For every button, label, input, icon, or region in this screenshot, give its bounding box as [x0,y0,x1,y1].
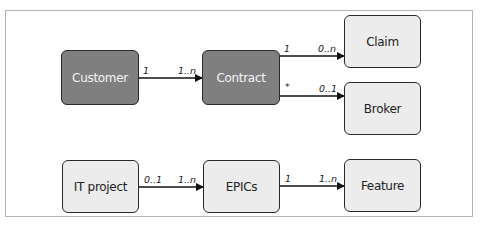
mult-claim-target: 0..n [318,44,336,54]
node-customer-label: Customer [72,71,128,85]
node-it-project[interactable]: IT project [62,160,139,213]
mult-feature-target: 1..n [319,174,337,184]
node-epics[interactable]: EPICs [203,160,280,213]
mult-customer-source: 1 [143,66,149,76]
mult-broker-target: 0..1 [319,84,337,94]
mult-contract-claim-source: 1 [284,44,290,54]
node-broker-label: Broker [364,102,401,116]
node-customer[interactable]: Customer [61,50,139,105]
node-claim-label: Claim [366,35,399,49]
node-epics-label: EPICs [226,180,258,194]
node-it-project-label: IT project [74,180,127,194]
mult-epics-target: 1..n [178,175,196,185]
mult-contract-target: 1..n [178,66,196,76]
node-claim[interactable]: Claim [344,15,421,68]
node-contract-label: Contract [216,71,265,85]
mult-itproject-source: 0..1 [144,175,162,185]
node-contract[interactable]: Contract [202,50,280,105]
node-feature-label: Feature [361,179,404,193]
mult-epics-feature-source: 1 [285,174,291,184]
node-broker[interactable]: Broker [344,82,421,135]
mult-contract-broker-source: * [285,82,290,92]
node-feature[interactable]: Feature [344,159,421,212]
